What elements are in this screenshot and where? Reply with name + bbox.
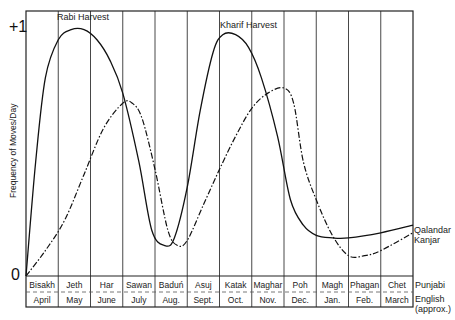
month-english: July — [123, 295, 155, 305]
y-tick-zero: 0 — [11, 266, 20, 284]
month-punjabi: Bisakh — [26, 280, 58, 290]
month-english: Dec. — [284, 295, 316, 305]
vertical-gridlines — [58, 11, 381, 307]
month-english: Aug. — [155, 295, 187, 305]
month-punjabi: Asuj — [187, 280, 219, 290]
chart-canvas — [0, 0, 455, 320]
month-english: Feb. — [349, 295, 381, 305]
month-punjabi: Jeth — [58, 280, 90, 290]
month-punjabi: Maghar — [252, 280, 284, 290]
annotation-kharif-harvest: Kharif Harvest — [220, 20, 277, 30]
month-punjabi: Magh — [316, 280, 348, 290]
month-english: May — [58, 295, 90, 305]
row-label-punjabi: Punjabi — [415, 280, 445, 290]
legend-qalandar: Qalandar — [414, 225, 451, 235]
annotation-rabi-harvest: Rabi Harvest — [57, 12, 109, 22]
month-punjabi: Sawan — [123, 280, 155, 290]
y-axis-label: Frequency of Moves/Day — [8, 104, 18, 198]
month-punjabi: Chet — [381, 280, 413, 290]
month-english: Nov. — [252, 295, 284, 305]
month-english: March — [381, 295, 413, 305]
month-english: April — [26, 295, 58, 305]
month-english: June — [91, 295, 123, 305]
month-english: Jan. — [316, 295, 348, 305]
month-punjabi: Har — [91, 280, 123, 290]
month-punjabi: Katak — [220, 280, 252, 290]
month-punjabi: Baduń — [155, 280, 187, 290]
month-punjabi: Phagan — [349, 280, 381, 290]
row-label-english: English (approx.) — [415, 294, 455, 314]
month-english: Oct. — [220, 295, 252, 305]
legend-kanjar: Kanjar — [414, 235, 440, 245]
y-tick-top: +1 — [9, 18, 27, 36]
month-punjabi: Poh — [284, 280, 316, 290]
month-english: Sept. — [187, 295, 219, 305]
